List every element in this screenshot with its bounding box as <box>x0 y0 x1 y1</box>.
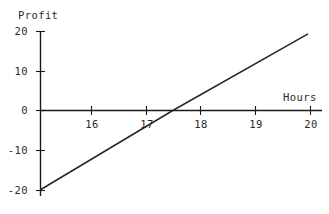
x-tick-label-19: 19 <box>244 119 268 130</box>
x-tick-label-20: 20 <box>299 119 323 130</box>
x-axis-title: Hours <box>283 92 317 103</box>
y-axis-title: Profit <box>18 10 58 21</box>
y-tick-label-0: 0 <box>0 105 28 116</box>
y-tick-label-10: 10 <box>0 66 28 77</box>
x-tick-label-18: 18 <box>189 119 213 130</box>
x-tick-label-16: 16 <box>80 119 104 130</box>
y-tick-label-minus-20: -20 <box>0 185 28 196</box>
y-tick-label-20: 20 <box>0 26 28 37</box>
y-tick-label-minus-10: -10 <box>0 145 28 156</box>
x-tick-label-17: 17 <box>135 119 159 130</box>
plot-area <box>0 0 329 214</box>
profit-line-series <box>41 34 308 190</box>
profit-vs-hours-chart: Profit Hours 20 10 0 -10 -20 16 17 18 19… <box>0 0 329 214</box>
